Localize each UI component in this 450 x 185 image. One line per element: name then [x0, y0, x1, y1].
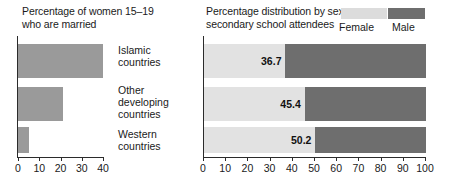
right-chart-bar-row: 50.2 [204, 127, 426, 153]
right-chart-panel: Percentage distribution by sex, secondar… [200, 0, 450, 185]
legend-label-female: Female [339, 21, 374, 33]
legend-swatches [341, 8, 425, 19]
category-label: Islamic countries [118, 44, 161, 68]
right-chart-segment-male [315, 127, 426, 153]
left-chart-tick [82, 157, 83, 161]
category-label: Other developing countries [118, 84, 169, 120]
left-chart-tick [103, 157, 104, 161]
right-chart-value-label: 36.7 [255, 55, 281, 67]
left-chart-x-axis-ticks: 010203040 [0, 157, 200, 177]
right-chart-tick-label: 100 [410, 162, 440, 174]
right-chart-segment-male [305, 87, 426, 121]
right-chart-tick [225, 157, 226, 161]
right-chart-tick [425, 157, 426, 161]
right-chart-bar-row: 45.4 [204, 87, 426, 121]
legend-labels: Female Male [339, 21, 434, 34]
right-chart-tick [381, 157, 382, 161]
left-chart-tick [61, 157, 62, 161]
right-chart-tick [314, 157, 315, 161]
right-chart-tick [403, 157, 404, 161]
left-chart-panel: Percentage of women 15–19 who are marrie… [0, 0, 200, 185]
right-chart-tick [270, 157, 271, 161]
right-chart-tick [292, 157, 293, 161]
right-chart-tick [247, 157, 248, 161]
left-chart-bar [18, 87, 63, 121]
legend-label-male: Male [392, 21, 415, 33]
left-chart-tick [39, 157, 40, 161]
legend-swatch-male [388, 8, 425, 19]
left-chart-tick [18, 157, 19, 161]
right-chart-tick [203, 157, 204, 161]
left-chart-title: Percentage of women 15–19 who are marrie… [22, 5, 202, 30]
right-chart-value-label: 45.4 [275, 98, 301, 110]
right-chart-tick [336, 157, 337, 161]
right-chart-tick [358, 157, 359, 161]
category-label: Western countries [118, 128, 161, 152]
legend: Female Male [341, 8, 441, 36]
right-chart-value-label: 50.2 [285, 134, 311, 146]
left-chart-tick-label: 40 [88, 162, 118, 174]
legend-swatch-female [341, 8, 387, 19]
right-chart-bar-row: 36.7 [204, 44, 426, 78]
right-chart-x-axis-ticks: 0102030405060708090100 [200, 157, 450, 177]
right-chart-segment-male [285, 44, 426, 78]
left-chart-bar [18, 127, 29, 153]
left-chart-bar [18, 44, 103, 78]
